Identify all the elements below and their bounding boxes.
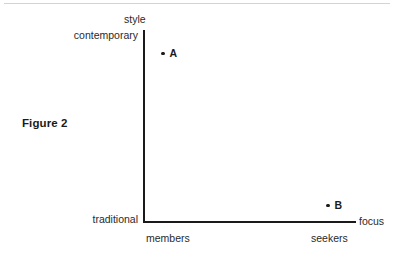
figure-canvas: Figure 2 style focus contemporary tradit…	[0, 0, 398, 260]
x-axis-tick-label-left: members	[146, 232, 190, 244]
y-axis-line	[143, 30, 145, 223]
data-point-label-a: A	[170, 48, 178, 59]
figure-caption: Figure 2	[22, 117, 68, 129]
x-axis-line	[143, 221, 356, 223]
y-axis-title: style	[124, 13, 146, 25]
data-point-label-b: B	[335, 200, 343, 211]
data-point-a: A	[161, 48, 177, 59]
data-point-marker-icon	[161, 52, 165, 56]
y-axis-tick-label-low: traditional	[92, 213, 138, 225]
data-point-b: B	[326, 200, 342, 211]
top-divider-rule	[4, 3, 390, 4]
y-axis-tick-label-high: contemporary	[74, 29, 138, 41]
data-point-marker-icon	[326, 204, 330, 208]
x-axis-title: focus	[359, 215, 384, 227]
x-axis-tick-label-right: seekers	[311, 232, 348, 244]
